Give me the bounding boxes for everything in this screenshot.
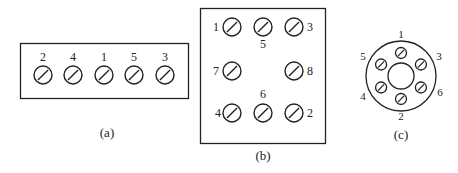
panel-c: 136245 (c): [360, 28, 443, 142]
screw-terminal-icon: [376, 59, 387, 70]
panel-b-caption: (b): [255, 148, 270, 163]
screw-terminal-icon: [285, 104, 303, 122]
screw-terminal-icon: [223, 104, 241, 122]
screw-terminal-icon: [396, 94, 407, 105]
terminal-label: 6: [260, 87, 266, 101]
screw-terminal-icon: [285, 18, 303, 36]
terminal-label: 5: [131, 50, 137, 64]
terminal-label: 5: [260, 37, 266, 51]
screw-terminal-icon: [125, 66, 143, 84]
terminal-label: 2: [398, 110, 404, 122]
terminal-label: 7: [213, 64, 219, 78]
terminal-label: 2: [40, 50, 46, 64]
panel-b-terminals: 15378462: [213, 18, 313, 122]
panel-b: 15378462 (b): [201, 9, 326, 164]
panel-a: 24153 (a): [21, 44, 189, 141]
terminal-label: 1: [398, 28, 404, 40]
screw-terminal-icon: [95, 66, 113, 84]
screw-terminal-icon: [285, 62, 303, 80]
screw-terminal-icon: [34, 66, 52, 84]
terminal-label: 4: [70, 50, 76, 64]
screw-terminal-icon: [223, 18, 241, 36]
terminal-label: 4: [215, 106, 221, 120]
terminal-label: 6: [437, 86, 443, 98]
screw-terminal-icon: [396, 48, 407, 59]
panel-c-outer-ring: [366, 41, 436, 111]
terminal-label: 3: [436, 50, 442, 62]
screw-terminal-icon: [415, 82, 426, 93]
screw-terminal-icon: [376, 82, 387, 93]
terminal-label: 3: [307, 20, 313, 34]
panel-c-terminals: 136245: [360, 28, 443, 122]
panel-a-caption: (a): [100, 125, 114, 140]
terminal-label: 1: [213, 20, 219, 34]
screw-terminal-icon: [415, 59, 426, 70]
screw-terminal-icon: [64, 66, 82, 84]
terminal-label: 1: [101, 50, 107, 64]
screw-terminal-icon: [223, 62, 241, 80]
terminal-label: 2: [307, 106, 313, 120]
terminal-label: 4: [360, 90, 366, 102]
panel-c-center-hole: [388, 63, 414, 89]
panel-c-caption: (c): [394, 127, 408, 142]
screw-terminal-icon: [156, 66, 174, 84]
terminal-label: 5: [360, 50, 366, 62]
terminal-layout-diagram: 24153 (a) 15378462 (b) 136245 (c): [0, 0, 458, 173]
terminal-label: 8: [307, 64, 313, 78]
screw-terminal-icon: [254, 18, 272, 36]
panel-a-terminals: 24153: [34, 50, 174, 84]
terminal-label: 3: [162, 50, 168, 64]
screw-terminal-icon: [254, 104, 272, 122]
